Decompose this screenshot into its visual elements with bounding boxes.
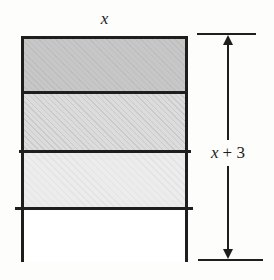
dimension-bottom-cap <box>198 259 263 261</box>
strip-1-shaded <box>23 38 186 92</box>
height-label-variable: x <box>211 143 219 162</box>
strip-4-unshaded <box>23 208 186 262</box>
strip-2-shaded <box>23 92 186 152</box>
height-label: x+ 3 <box>193 144 263 161</box>
dimension-line-lower <box>227 166 229 252</box>
strip-divider-3 <box>15 207 193 210</box>
strip-3-shaded <box>23 152 186 208</box>
height-label-rest: + 3 <box>223 143 245 162</box>
width-label: x <box>24 10 185 27</box>
rect-right-edge <box>185 36 188 262</box>
strip-divider-1 <box>21 91 188 94</box>
strip-divider-2 <box>19 150 191 153</box>
dimension-line-upper <box>227 40 229 140</box>
rect-left-edge <box>21 36 24 262</box>
down-arrowhead-icon <box>223 249 233 259</box>
figure-canvas: { "figure": { "labels": { "width": "x", … <box>0 0 274 280</box>
rect-top-edge <box>21 36 188 39</box>
